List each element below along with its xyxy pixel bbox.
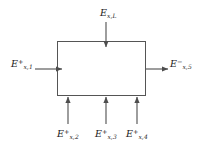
label-left-symbol: E <box>11 58 18 69</box>
label-bottom-4-symbol: E <box>126 128 133 139</box>
label-flow-bottom-3: E+x,3 <box>95 129 117 140</box>
label-flow-bottom-4: E+x,4 <box>126 129 148 140</box>
label-bottom-4-subscript: x,4 <box>138 133 147 140</box>
label-bottom-3-symbol: E <box>95 128 102 139</box>
diagram-canvas: Ex,L E+x,1 E−x,5 E+x,2 E+x,3 E+x,4 <box>0 0 205 151</box>
label-flow-bottom-2: E+x,2 <box>57 129 79 140</box>
label-top-symbol: E <box>100 7 107 18</box>
label-flow-top: Ex,L <box>100 8 117 19</box>
label-right-subscript: x,5 <box>182 63 191 70</box>
label-flow-left: E+x,1 <box>11 59 33 70</box>
label-bottom-3-subscript: x,3 <box>107 133 116 140</box>
control-volume-box <box>58 42 146 96</box>
label-top-subscript: x,L <box>107 12 117 19</box>
label-right-symbol: E <box>170 58 177 69</box>
label-flow-right: E−x,5 <box>170 59 192 70</box>
label-left-subscript: x,1 <box>23 63 32 70</box>
label-bottom-2-subscript: x,2 <box>69 133 78 140</box>
label-bottom-2-symbol: E <box>57 128 64 139</box>
